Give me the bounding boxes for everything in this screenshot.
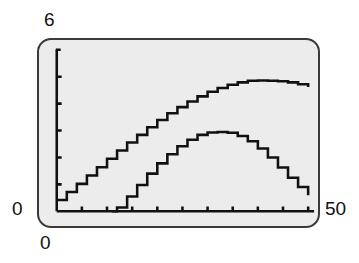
x-axis-max-label: 50: [325, 199, 346, 218]
series-lower-curve: [112, 132, 308, 211]
y-axis-max-label: 6: [44, 10, 55, 29]
plot-canvas: [39, 40, 318, 226]
plot-screenshot: 6 0 0 50: [0, 0, 359, 263]
plot-frame: [37, 38, 320, 228]
x-axis-zero-label: 0: [40, 233, 51, 252]
series-upper-curve: [57, 80, 308, 200]
y-axis-zero-label: 0: [12, 199, 23, 218]
series-group: [57, 80, 308, 211]
axes-group: [56, 50, 314, 212]
